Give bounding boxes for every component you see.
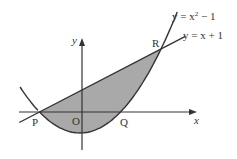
- line-label: y = x + 1: [183, 29, 223, 41]
- point-label-q: Q: [120, 116, 128, 128]
- parabola-left-branch: [20, 87, 38, 110]
- point-label-r: R: [152, 37, 160, 49]
- origin-label: O: [72, 115, 80, 127]
- x-axis-label: x: [193, 114, 199, 126]
- point-label-p: P: [32, 116, 38, 128]
- diagram-svg: y = x2 − 1 y = x + 1 y x O P Q R: [0, 0, 237, 159]
- y-axis-arrow: [79, 38, 85, 46]
- shaded-region: [40, 49, 162, 133]
- y-axis-label: y: [71, 34, 77, 46]
- diagram: y = x2 − 1 y = x + 1 y x O P Q R: [0, 0, 237, 159]
- parabola-label: y = x2 − 1: [172, 10, 215, 22]
